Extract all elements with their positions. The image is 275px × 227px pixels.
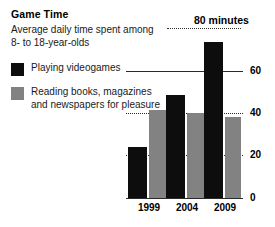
tick-mark-60 [230, 71, 243, 72]
y-axis-label-0: 0 [250, 192, 256, 203]
y-axis-label-20: 20 [250, 149, 261, 160]
y-axis-label-80: 80 minutes [194, 14, 249, 26]
x-axis-label-2009: 2009 [204, 202, 246, 213]
y-axis-label-40: 40 [250, 107, 261, 118]
x-axis-label-1999: 1999 [128, 202, 170, 213]
gridline-80 [167, 28, 241, 29]
chart-figure: Game Time Average daily time spent among… [0, 0, 275, 227]
bar-1999-videogames [128, 147, 147, 198]
x-axis-line [126, 198, 243, 199]
legend-label-videogames: Playing videogames [31, 62, 121, 75]
legend-swatch-black-icon [11, 63, 24, 76]
bar-2004-videogames [166, 95, 185, 198]
bar-2009-reading [225, 117, 241, 198]
bar-2009-videogames [204, 42, 223, 198]
legend-swatch-gray-icon [11, 87, 24, 100]
gridline-60 [126, 71, 243, 72]
x-axis-label-2004: 2004 [166, 202, 208, 213]
y-axis-label-60: 60 [250, 65, 261, 76]
plot-area [126, 8, 243, 199]
page-title: Game Time [11, 8, 68, 20]
